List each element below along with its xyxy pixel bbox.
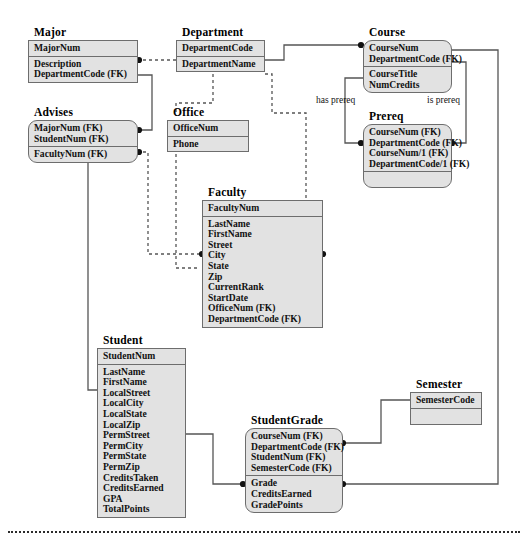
entity-semester-box: SemesterCode bbox=[410, 392, 482, 425]
entity-studentgrade-title: StudentGrade bbox=[251, 414, 343, 426]
entity-studentgrade-key-section: CourseNum (FK) DepartmentCode (FK) Stude… bbox=[246, 429, 342, 475]
entity-major-box: MajorNum Description DepartmentCode (FK) bbox=[28, 40, 138, 83]
page-bottom-rule bbox=[8, 531, 520, 533]
connector-advises-student bbox=[88, 158, 97, 390]
entity-major[interactable]: Major MajorNum Description DepartmentCod… bbox=[28, 26, 138, 83]
attribute: MajorNum (FK) bbox=[34, 123, 132, 134]
entity-office-attr-section: Phone bbox=[168, 136, 248, 152]
attribute: CreditsEarned bbox=[251, 489, 337, 500]
attribute: MajorNum bbox=[34, 43, 132, 54]
entity-department-key-section: DepartmentCode bbox=[177, 41, 264, 56]
attribute: TotalPoints bbox=[103, 504, 180, 515]
entity-prereq-key-section: CourseNum (FK) DepartmentCode (FK) Cours… bbox=[364, 125, 451, 171]
connector-department-course bbox=[265, 45, 363, 60]
entity-student-attr-section: LastName FirstName LocalStreet LocalCity… bbox=[98, 364, 185, 517]
entity-semester[interactable]: Semester SemesterCode bbox=[410, 378, 482, 425]
entity-prereq-box: CourseNum (FK) DepartmentCode (FK) Cours… bbox=[363, 124, 452, 188]
entity-prereq-attr-section bbox=[364, 171, 451, 187]
relationship-label-has-prereq: has prereq bbox=[316, 95, 355, 105]
attribute: DepartmentCode/1 (FK) bbox=[369, 159, 446, 170]
attribute: NumCredits bbox=[369, 80, 446, 91]
entity-department-box: DepartmentCode DepartmentName bbox=[176, 40, 265, 72]
entity-student-title: Student bbox=[103, 334, 186, 346]
entity-office[interactable]: Office OfficeNum Phone bbox=[167, 106, 249, 152]
attribute: CourseNum (FK) bbox=[251, 431, 337, 442]
attribute: OfficeNum bbox=[173, 123, 243, 134]
entity-advises-box: MajorNum (FK) StudentNum (FK) FacultyNum… bbox=[28, 120, 138, 163]
connector-advises-faculty bbox=[137, 152, 200, 254]
connector-course-prereq-has bbox=[345, 78, 363, 143]
attribute: DepartmentCode bbox=[182, 43, 259, 54]
connector-major-advises bbox=[137, 75, 152, 130]
attribute: DepartmentName bbox=[182, 59, 259, 70]
attribute: SemesterCode (FK) bbox=[251, 463, 337, 474]
attribute: StudentNum bbox=[103, 351, 180, 362]
entity-course[interactable]: Course CourseNum DepartmentCode (FK) Cou… bbox=[363, 26, 452, 93]
entity-office-title: Office bbox=[173, 106, 249, 118]
attribute: PermZip bbox=[103, 462, 180, 473]
entity-semester-title: Semester bbox=[416, 378, 482, 390]
entity-studentgrade-box: CourseNum (FK) DepartmentCode (FK) Stude… bbox=[245, 428, 343, 513]
entity-prereq[interactable]: Prereq CourseNum (FK) DepartmentCode (FK… bbox=[363, 110, 452, 188]
entity-major-key-section: MajorNum bbox=[29, 41, 137, 56]
connector-student-studentgrade bbox=[186, 434, 245, 484]
entity-prereq-title: Prereq bbox=[369, 110, 452, 122]
entity-office-box: OfficeNum Phone bbox=[167, 120, 249, 152]
entity-student[interactable]: Student StudentNum LastName FirstName Lo… bbox=[97, 334, 186, 518]
entity-course-attr-section: CourseTitle NumCredits bbox=[364, 66, 451, 92]
attribute: CourseNum bbox=[369, 43, 446, 54]
connector-semester-studentgrade bbox=[345, 400, 410, 443]
entity-semester-attr-section bbox=[411, 408, 481, 424]
attribute: GradePoints bbox=[251, 500, 337, 511]
entity-studentgrade-attr-section: Grade CreditsEarned GradePoints bbox=[246, 475, 342, 512]
attribute: DepartmentCode (FK) bbox=[34, 69, 132, 80]
entity-office-key-section: OfficeNum bbox=[168, 121, 248, 136]
entity-major-title: Major bbox=[34, 26, 138, 38]
entity-advises-attr-section: FacultyNum (FK) bbox=[29, 146, 137, 162]
attribute: SemesterCode bbox=[416, 395, 476, 406]
er-diagram-canvas: Major MajorNum Description DepartmentCod… bbox=[0, 0, 527, 545]
entity-advises-title: Advises bbox=[34, 106, 138, 118]
entity-major-attr-section: Description DepartmentCode (FK) bbox=[29, 56, 137, 82]
relationship-label-is-prereq: is prereq bbox=[427, 95, 460, 105]
connector-office-faculty bbox=[176, 148, 200, 268]
entity-faculty-title: Faculty bbox=[208, 186, 323, 198]
entity-department[interactable]: Department DepartmentCode DepartmentName bbox=[176, 26, 265, 72]
attribute: FacultyNum (FK) bbox=[34, 149, 132, 160]
attribute: StudentNum (FK) bbox=[34, 134, 132, 145]
attribute: FacultyNum bbox=[208, 203, 317, 214]
entity-semester-key-section: SemesterCode bbox=[411, 393, 481, 408]
entity-department-title: Department bbox=[182, 26, 265, 38]
entity-faculty[interactable]: Faculty FacultyNum LastName FirstName St… bbox=[202, 186, 323, 328]
entity-student-key-section: StudentNum bbox=[98, 349, 185, 364]
entity-course-box: CourseNum DepartmentCode (FK) CourseTitl… bbox=[363, 40, 452, 93]
attribute: DepartmentCode (FK) bbox=[369, 54, 446, 65]
entity-advises[interactable]: Advises MajorNum (FK) StudentNum (FK) Fa… bbox=[28, 106, 138, 163]
attribute: Phone bbox=[173, 139, 243, 150]
attribute: LocalState bbox=[103, 409, 180, 420]
entity-course-key-section: CourseNum DepartmentCode (FK) bbox=[364, 41, 451, 66]
attribute: CourseNum (FK) bbox=[369, 127, 446, 138]
entity-advises-key-section: MajorNum (FK) StudentNum (FK) bbox=[29, 121, 137, 146]
attribute: DepartmentCode (FK) bbox=[208, 314, 317, 325]
entity-faculty-attr-section: LastName FirstName Street City State Zip… bbox=[203, 216, 322, 327]
entity-faculty-key-section: FacultyNum bbox=[203, 201, 322, 216]
entity-course-title: Course bbox=[369, 26, 452, 38]
entity-department-attr-section: DepartmentName bbox=[177, 56, 264, 72]
entity-student-box: StudentNum LastName FirstName LocalStree… bbox=[97, 348, 186, 518]
entity-faculty-box: FacultyNum LastName FirstName Street Cit… bbox=[202, 200, 323, 328]
entity-studentgrade[interactable]: StudentGrade CourseNum (FK) DepartmentCo… bbox=[245, 414, 343, 513]
attribute: State bbox=[208, 261, 317, 272]
